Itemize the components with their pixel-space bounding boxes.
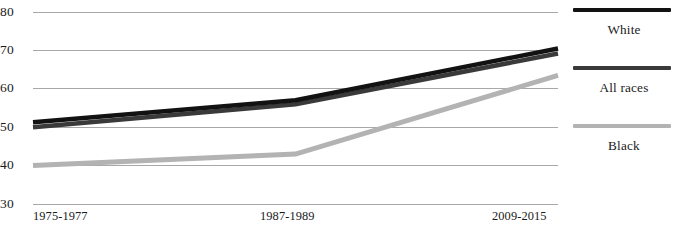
legend-entry-black: Black [566,124,682,152]
x-tick-label-1975-1977: 1975-1977 [33,210,88,222]
legend-swatch-all-races [573,66,671,70]
legend-entry-all-races: All races [566,66,682,94]
plot-area: 80 70 60 50 40 30 1975-1977 1987-1989 20… [0,0,566,249]
legend-swatch-white [573,8,671,12]
legend-swatch-black [573,124,671,128]
line-series-white [33,48,558,122]
legend-label-black: Black [566,139,682,152]
chart-figure: 80 70 60 50 40 30 1975-1977 1987-1989 20… [0,0,682,249]
legend-label-white: White [566,23,682,36]
x-tick-label-1987-1989: 1987-1989 [260,210,315,222]
x-tick-label-2009-2015: 2009-2015 [492,210,547,222]
chart-legend: White All races Black [566,0,682,249]
legend-label-all-races: All races [566,81,682,94]
legend-entry-white: White [566,8,682,36]
